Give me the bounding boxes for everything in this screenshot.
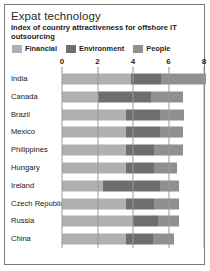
chart-title: Expat technology xyxy=(11,10,198,23)
x-tick-label-2: 2 xyxy=(95,57,99,66)
bar-stack xyxy=(62,216,179,227)
bar-category-label: Philippines xyxy=(11,146,60,155)
chart-inner: Expat technology Index of country attrac… xyxy=(5,5,204,264)
bar-segment-environment xyxy=(103,180,160,191)
bar-segment-environment xyxy=(133,216,158,227)
bar-segment-people xyxy=(154,163,177,174)
bar-row: Czech Republic xyxy=(62,195,198,213)
bar-segment-financial xyxy=(62,109,126,120)
bar-row: Canada xyxy=(62,88,198,106)
bar-row: Russia xyxy=(62,213,198,231)
bar-stack xyxy=(62,163,177,174)
bar-category-label: Russia xyxy=(11,217,60,226)
bar-row: Mexico xyxy=(62,124,198,142)
bar-row: Philippines xyxy=(62,141,198,159)
legend-entry-financial: Financial xyxy=(12,45,57,53)
bar-category-label: Ireland xyxy=(11,182,60,191)
bar-segment-environment xyxy=(126,145,154,156)
chart-border: Expat technology Index of country attrac… xyxy=(4,4,205,265)
bar-segment-environment xyxy=(126,163,154,174)
bar-segment-financial xyxy=(62,163,126,174)
bar-category-label: Brazil xyxy=(11,110,60,119)
bar-row: India xyxy=(62,70,198,88)
legend-swatch-environment xyxy=(66,45,76,53)
bar-category-label: Czech Republic xyxy=(11,199,60,208)
bar-segment-environment xyxy=(126,127,160,138)
bar-row: Ireland xyxy=(62,177,198,195)
chart-subtitle: Index of country attractiveness for offs… xyxy=(11,24,193,41)
legend-label-environment: Environment xyxy=(79,45,124,53)
bar-stack xyxy=(62,145,183,156)
x-tick-label-8: 8 xyxy=(202,57,206,66)
bar-segment-people xyxy=(151,91,183,102)
bar-stack xyxy=(62,109,184,120)
legend-swatch-people xyxy=(133,45,143,53)
bar-stack xyxy=(62,74,206,85)
chart-plot-area: 02468 IndiaCanadaBrazilMexicoPhilippines… xyxy=(11,57,198,253)
bar-segment-financial xyxy=(62,234,126,245)
bar-segment-financial xyxy=(62,145,126,156)
legend-swatch-financial xyxy=(12,45,22,53)
gridline-6 xyxy=(168,70,169,248)
chart-figure: Expat technology Index of country attrac… xyxy=(0,0,210,271)
bar-stack xyxy=(62,234,174,245)
bar-segment-environment xyxy=(131,74,161,85)
legend-entry-people: People xyxy=(133,45,170,53)
x-tick-label-6: 6 xyxy=(166,57,170,66)
x-tick-label-4: 4 xyxy=(131,57,135,66)
bar-category-label: India xyxy=(11,75,60,84)
bar-segment-people xyxy=(154,198,179,209)
bar-segment-people xyxy=(160,109,185,120)
bar-segment-financial xyxy=(62,127,126,138)
bar-stack xyxy=(62,180,179,191)
bar-segment-financial xyxy=(62,91,98,102)
x-axis: 02468 xyxy=(62,57,198,70)
legend-label-people: People xyxy=(146,45,170,53)
legend-label-financial: Financial xyxy=(25,45,57,53)
bar-category-label: Canada xyxy=(11,93,60,102)
gridline-2 xyxy=(97,70,98,248)
legend-entry-environment: Environment xyxy=(66,45,124,53)
bars-area: IndiaCanadaBrazilMexicoPhilippinesHungar… xyxy=(62,70,198,248)
bar-segment-environment xyxy=(126,198,154,209)
bar-category-label: Hungary xyxy=(11,164,60,173)
bar-row: Hungary xyxy=(62,159,198,177)
bar-segment-financial xyxy=(62,198,126,209)
bar-segment-people xyxy=(153,234,174,245)
bar-segment-people xyxy=(160,127,183,138)
chart-legend: Financial Environment People xyxy=(12,44,198,54)
gridline-8 xyxy=(204,70,205,248)
bar-stack xyxy=(62,198,179,209)
bar-segment-environment xyxy=(126,234,153,245)
bar-stack xyxy=(62,127,183,138)
bar-stack xyxy=(62,91,183,102)
bar-segment-environment xyxy=(126,109,160,120)
bar-segment-environment xyxy=(98,91,151,102)
bar-row: China xyxy=(62,230,198,248)
bar-category-label: Mexico xyxy=(11,128,60,137)
gridline-4 xyxy=(133,70,134,248)
bar-category-label: China xyxy=(11,235,60,244)
x-tick-label-0: 0 xyxy=(60,57,64,66)
bar-row: Brazil xyxy=(62,106,198,124)
gridline-0 xyxy=(62,70,63,248)
bar-segment-people xyxy=(160,180,180,191)
